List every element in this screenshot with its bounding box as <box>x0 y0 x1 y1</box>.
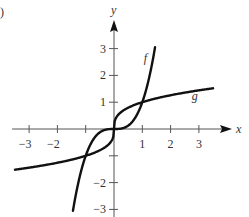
x-tick-label: −2 <box>47 137 60 151</box>
y-axis-label: y <box>110 3 117 17</box>
curve-label-g: g <box>192 89 198 103</box>
labels: −3−2123−3−2123xyfg <box>19 3 242 216</box>
y-tick-label: 2 <box>100 68 106 82</box>
axes <box>12 20 232 217</box>
x-axis-label: x <box>235 122 242 136</box>
y-tick-label: 1 <box>100 95 106 109</box>
function-graph: ) −3−2123−3−2123xyfg <box>0 0 249 217</box>
y-tick-label: −2 <box>93 176 106 190</box>
part-marker: ) <box>0 5 4 19</box>
x-tick-label: 1 <box>139 137 145 151</box>
y-tick-label: 3 <box>100 42 106 56</box>
y-tick-label: −3 <box>93 202 106 216</box>
x-tick-label: 3 <box>196 137 202 151</box>
curve-label-f: f <box>144 51 149 65</box>
x-tick-label: 2 <box>168 137 174 151</box>
x-tick-label: −3 <box>19 137 32 151</box>
